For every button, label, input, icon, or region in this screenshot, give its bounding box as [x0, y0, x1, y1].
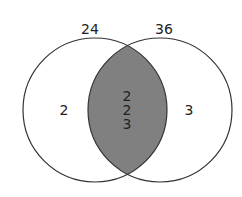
left-only-factor: 2 — [60, 102, 69, 118]
right-only-factor: 3 — [185, 102, 194, 118]
set-label-36: 36 — [155, 21, 173, 37]
shared-factor-3: 3 — [123, 116, 132, 132]
set-label-24: 24 — [81, 21, 99, 37]
intersection-region — [88, 38, 232, 182]
venn-diagram: 24 36 2 3 2 2 3 — [0, 0, 242, 197]
